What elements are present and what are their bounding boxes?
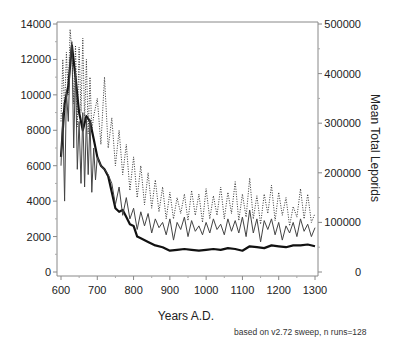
x-axis-title: Years A.D. [158, 309, 214, 323]
x-tick-label: 1300 [303, 284, 327, 296]
left-y-tick-label: 14000 [20, 18, 51, 30]
series-line-thin-solid [61, 42, 315, 242]
x-tick-label: 900 [161, 284, 179, 296]
footnote-annotation: based on v2.72 sweep, n runs=128 [234, 327, 367, 337]
right-y-axis-title: Mean Total Leporids [368, 94, 382, 202]
series-line-dotted [61, 29, 315, 226]
right-y-tick-label: 400000 [324, 68, 361, 80]
x-tick-label: 700 [88, 284, 106, 296]
right-y-tick-label: 300000 [324, 117, 361, 129]
right-y-tick-label: 0 [355, 266, 361, 278]
chart: 02000400060008000100001200014000 0100000… [0, 0, 399, 348]
left-y-tick-label: 8000 [27, 124, 51, 136]
x-tick-label: 1200 [266, 284, 290, 296]
right-y-tick-label: 500000 [324, 18, 361, 30]
left-y-tick-label: 0 [45, 266, 51, 278]
left-y-tick-label: 4000 [27, 195, 51, 207]
x-tick-label: 1000 [194, 284, 218, 296]
left-y-tick-label: 2000 [27, 231, 51, 243]
left-y-tick-label: 6000 [27, 160, 51, 172]
left-y-axis: 02000400060008000100001200014000 [20, 18, 57, 278]
left-y-tick-label: 12000 [20, 53, 51, 65]
x-tick-label: 1100 [231, 284, 255, 296]
x-tick-label: 600 [52, 284, 70, 296]
x-tick-label: 800 [124, 284, 142, 296]
x-axis: 6007008009001000110012001300 [52, 276, 327, 296]
right-y-tick-label: 200000 [324, 167, 361, 179]
right-y-axis: 0100000200000300000400000500000 [318, 18, 361, 278]
left-y-tick-label: 10000 [20, 89, 51, 101]
series-layer [61, 29, 315, 250]
right-y-tick-label: 100000 [324, 216, 361, 228]
